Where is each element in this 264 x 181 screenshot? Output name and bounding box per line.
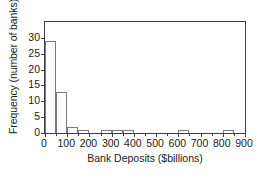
y-tick-label: 0 — [18, 127, 40, 137]
y-tick-mark — [41, 54, 45, 55]
y-axis-tick-labels: 051015202530 — [16, 0, 40, 181]
histogram-bar — [45, 41, 56, 133]
x-tick-mark-minor — [189, 133, 190, 136]
x-tick-mark-minor — [123, 133, 124, 136]
y-tick-label: 15 — [18, 79, 40, 89]
histogram-bar — [123, 130, 134, 133]
histogram-bar — [178, 130, 189, 133]
histogram-bar — [67, 127, 78, 133]
y-tick-label: 10 — [18, 95, 40, 105]
bars-container — [45, 22, 245, 133]
y-tick-mark — [41, 117, 45, 118]
y-tick-label: 30 — [18, 32, 40, 42]
x-tick-mark-minor — [145, 133, 146, 136]
y-tick-label: 20 — [18, 64, 40, 74]
histogram-figure: Frequency (number of banks) 051015202530… — [0, 0, 264, 181]
x-tick-mark-minor — [212, 133, 213, 136]
plot-area — [44, 21, 246, 134]
histogram-bar — [101, 130, 112, 133]
x-tick-mark-minor — [101, 133, 102, 136]
x-tick-label: 900 — [229, 137, 259, 149]
histogram-bar — [56, 92, 67, 133]
histogram-bar — [78, 130, 89, 133]
y-tick-mark — [41, 85, 45, 86]
y-tick-mark — [41, 101, 45, 102]
x-axis-title: Bank Deposits ($billions) — [44, 152, 246, 164]
y-tick-label: 25 — [18, 48, 40, 58]
x-tick-mark-minor — [78, 133, 79, 136]
histogram-bar — [223, 130, 234, 133]
x-tick-mark-minor — [234, 133, 235, 136]
y-tick-mark — [41, 70, 45, 71]
x-tick-mark-minor — [56, 133, 57, 136]
histogram-bar — [112, 130, 123, 133]
y-tick-label: 5 — [18, 111, 40, 121]
x-tick-mark-minor — [167, 133, 168, 136]
y-tick-mark — [41, 38, 45, 39]
x-axis-tick-labels: 0100200300400500600700800900 — [44, 137, 246, 151]
